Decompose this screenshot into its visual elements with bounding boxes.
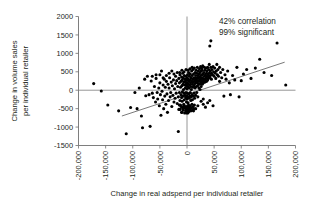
data-point xyxy=(219,71,222,74)
data-point xyxy=(196,104,199,107)
data-point xyxy=(202,103,205,106)
data-point xyxy=(133,91,136,94)
data-point xyxy=(174,97,177,100)
data-point xyxy=(156,98,159,101)
data-point xyxy=(193,97,196,100)
y-tick-label: 1500 xyxy=(57,31,73,40)
data-point xyxy=(211,104,214,107)
data-point xyxy=(129,106,132,109)
data-point xyxy=(218,80,221,83)
data-point xyxy=(218,66,221,69)
data-point xyxy=(238,95,241,98)
data-point xyxy=(164,103,167,106)
data-point xyxy=(159,93,162,96)
data-point xyxy=(141,126,144,129)
x-tick-label: 100,000 xyxy=(237,151,246,178)
data-points-layer xyxy=(92,39,287,135)
data-point xyxy=(222,95,225,98)
data-point xyxy=(163,95,166,98)
data-point xyxy=(193,103,196,106)
x-tick-label: -150,000 xyxy=(101,151,110,180)
data-point xyxy=(173,87,176,90)
y-axis-title: Change in volume sales xyxy=(10,40,19,121)
data-point xyxy=(233,78,236,81)
data-point xyxy=(208,63,211,66)
data-point xyxy=(92,82,95,85)
data-point xyxy=(172,78,175,81)
data-point xyxy=(195,91,198,94)
data-point xyxy=(192,109,195,112)
data-point xyxy=(153,85,156,88)
data-point xyxy=(171,94,174,97)
data-point xyxy=(198,88,201,91)
data-point xyxy=(276,41,279,44)
data-point xyxy=(165,92,168,95)
data-point xyxy=(158,104,161,107)
data-point xyxy=(125,132,128,135)
data-point xyxy=(117,109,120,112)
chart-annotation: 42% correlation xyxy=(219,17,276,26)
data-point xyxy=(165,80,168,83)
data-point xyxy=(179,108,182,111)
data-point xyxy=(158,81,161,84)
data-point xyxy=(208,44,211,47)
data-point xyxy=(168,72,171,75)
data-point xyxy=(231,74,234,77)
data-point xyxy=(143,78,146,81)
data-point xyxy=(178,103,181,106)
data-point xyxy=(202,98,205,101)
data-point xyxy=(159,114,162,117)
data-point xyxy=(100,89,103,92)
data-point xyxy=(152,96,155,99)
data-point xyxy=(165,74,168,77)
data-point xyxy=(162,84,165,87)
x-tick-label: 0 xyxy=(183,151,192,155)
data-point xyxy=(147,93,150,96)
scatter-plot-figure: -1500-1000-5000500100015002000-200,000-1… xyxy=(0,0,309,207)
data-point xyxy=(225,78,228,81)
data-point xyxy=(206,101,209,104)
data-point xyxy=(170,81,173,84)
chart-annotation: 99% significant xyxy=(219,28,275,37)
data-point xyxy=(156,91,159,94)
y-tick-label: 0 xyxy=(69,86,73,95)
data-point xyxy=(170,105,173,108)
data-point xyxy=(169,91,172,94)
data-point xyxy=(258,58,261,61)
data-point xyxy=(171,84,174,87)
data-point xyxy=(151,75,154,78)
data-point xyxy=(178,71,181,74)
y-tick-label: 1000 xyxy=(57,49,73,58)
data-point xyxy=(183,112,186,115)
data-point xyxy=(220,76,223,79)
data-point xyxy=(175,79,178,82)
data-point xyxy=(249,77,252,80)
y-axis-title: per individual retailer xyxy=(21,45,30,116)
data-point xyxy=(169,95,172,98)
data-point xyxy=(138,86,141,89)
data-point xyxy=(175,92,178,95)
y-tick-label: 500 xyxy=(61,67,73,76)
data-point xyxy=(164,86,167,89)
x-tick-label: 150,000 xyxy=(264,151,273,178)
data-point xyxy=(180,111,183,114)
data-point xyxy=(245,68,248,71)
data-point xyxy=(228,81,231,84)
data-point xyxy=(177,95,180,98)
y-tick-label: -1500 xyxy=(54,141,73,150)
data-point xyxy=(168,76,171,79)
data-point xyxy=(166,83,169,86)
data-point xyxy=(155,73,158,76)
data-point xyxy=(151,92,154,95)
data-point xyxy=(172,72,175,75)
data-point xyxy=(144,94,147,97)
data-point xyxy=(154,100,157,103)
data-point xyxy=(215,63,218,66)
data-point xyxy=(196,95,199,98)
data-point xyxy=(194,107,197,110)
data-point xyxy=(176,85,179,88)
data-point xyxy=(217,75,220,78)
data-point xyxy=(242,72,245,75)
data-point xyxy=(235,66,238,69)
data-point xyxy=(140,114,143,117)
